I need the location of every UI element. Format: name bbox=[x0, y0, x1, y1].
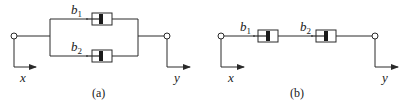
damper-b2-icon bbox=[86, 50, 112, 62]
damper-b1-label: b1 bbox=[71, 2, 82, 19]
damper-b1-icon bbox=[253, 30, 278, 42]
output-terminal-icon bbox=[372, 33, 378, 39]
output-label-y: y bbox=[172, 70, 180, 85]
damper-b2-label: b2 bbox=[300, 19, 311, 36]
diagram-a-parallel: b1 b2 x y (a) bbox=[11, 2, 190, 100]
output-label-y: y bbox=[380, 70, 388, 85]
output-terminal-icon bbox=[164, 33, 170, 39]
damper-b1-icon bbox=[86, 13, 112, 25]
damper-b2-label: b2 bbox=[71, 39, 82, 56]
input-terminal-icon bbox=[218, 33, 224, 39]
damper-b2-icon bbox=[311, 30, 336, 42]
diagram-b-series: b1 b2 x y (b) bbox=[218, 19, 398, 100]
input-label-x: x bbox=[19, 70, 26, 85]
damper-b1-label: b1 bbox=[240, 19, 251, 36]
input-terminal-icon bbox=[11, 33, 17, 39]
damper-diagrams: b1 b2 x y (a) b1 b2 x y (b) bbox=[0, 0, 412, 105]
caption-b: (b) bbox=[290, 86, 304, 100]
input-label-x: x bbox=[227, 70, 234, 85]
caption-a: (a) bbox=[92, 86, 105, 100]
